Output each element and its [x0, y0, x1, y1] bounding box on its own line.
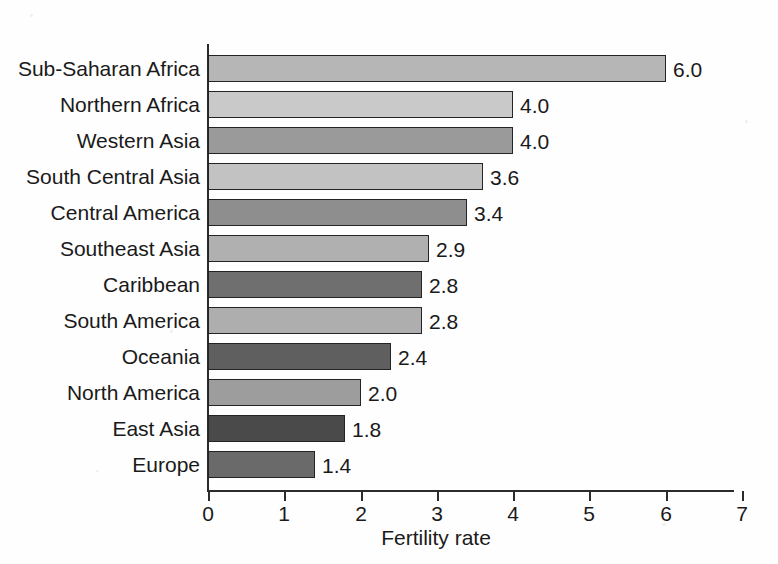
bar-row: 6.0 [208, 55, 742, 82]
bar-row: 4.0 [208, 91, 742, 118]
bar-row: 1.4 [208, 451, 742, 478]
category-label: Sub-Saharan Africa [4, 58, 200, 79]
category-axis-labels: Sub-Saharan AfricaNorthern AfricaWestern… [0, 44, 200, 490]
bar-value-label: 1.8 [352, 418, 381, 439]
x-tick-mark [666, 491, 668, 501]
bar [208, 451, 315, 478]
bar-row: 2.8 [208, 271, 742, 298]
x-tick-mark [437, 491, 439, 501]
plot-area: 6.04.04.03.63.42.92.82.82.42.01.81.4 [208, 44, 742, 490]
category-label: South America [4, 310, 200, 331]
category-label: Oceania [4, 346, 200, 367]
bar-row: 4.0 [208, 127, 742, 154]
bar [208, 307, 422, 334]
bar [208, 343, 391, 370]
x-tick-mark [589, 491, 591, 501]
bar [208, 199, 467, 226]
bar-value-label: 6.0 [673, 58, 702, 79]
bar [208, 271, 422, 298]
x-tick-label: 0 [202, 503, 214, 524]
category-label: North America [4, 382, 200, 403]
bar [208, 55, 666, 82]
bar [208, 415, 345, 442]
category-label: Europe [4, 454, 200, 475]
x-tick-label: 4 [507, 503, 519, 524]
bar [208, 379, 361, 406]
bar-value-label: 2.8 [429, 310, 458, 331]
fertility-rate-bar-chart: Sub-Saharan AfricaNorthern AfricaWestern… [0, 0, 778, 564]
bar-row: 1.8 [208, 415, 742, 442]
bar-value-label: 1.4 [322, 454, 351, 475]
x-tick-label: 2 [355, 503, 367, 524]
scan-artifact [745, 120, 748, 123]
x-axis-ticks: 01234567 [208, 491, 742, 531]
category-label: Central America [4, 202, 200, 223]
bar-value-label: 2.0 [368, 382, 397, 403]
x-tick-label: 5 [583, 503, 595, 524]
bar-value-label: 3.6 [490, 166, 519, 187]
bar-row: 2.0 [208, 379, 742, 406]
bar-value-label: 2.8 [429, 274, 458, 295]
bar-value-label: 4.0 [520, 94, 549, 115]
category-label: Caribbean [4, 274, 200, 295]
bar [208, 127, 513, 154]
category-label: Southeast Asia [4, 238, 200, 259]
category-label: Northern Africa [4, 94, 200, 115]
bar-value-label: 2.9 [436, 238, 465, 259]
x-tick-label: 3 [431, 503, 443, 524]
x-tick-mark [513, 491, 515, 501]
bar [208, 235, 429, 262]
x-axis-title: Fertility rate [208, 527, 664, 548]
bar [208, 91, 513, 118]
bar-row: 3.4 [208, 199, 742, 226]
bar [208, 163, 483, 190]
x-tick-mark [361, 491, 363, 501]
bar-row: 2.8 [208, 307, 742, 334]
x-tick-label: 7 [736, 503, 748, 524]
category-label: South Central Asia [4, 166, 200, 187]
x-tick-mark [742, 491, 744, 501]
x-tick-label: 6 [660, 503, 672, 524]
category-label: East Asia [4, 418, 200, 439]
scan-artifact [30, 14, 33, 17]
bar-row: 2.4 [208, 343, 742, 370]
bar-value-label: 4.0 [520, 130, 549, 151]
x-tick-label: 1 [278, 503, 290, 524]
bar-row: 2.9 [208, 235, 742, 262]
bar-row: 3.6 [208, 163, 742, 190]
category-label: Western Asia [4, 130, 200, 151]
bar-value-label: 3.4 [474, 202, 503, 223]
x-tick-mark [284, 491, 286, 501]
x-tick-mark [208, 491, 210, 501]
bar-value-label: 2.4 [398, 346, 427, 367]
